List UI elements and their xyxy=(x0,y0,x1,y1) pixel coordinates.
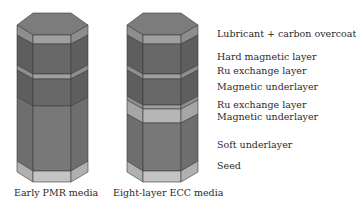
caption-early-pmr: Early PMR media xyxy=(14,188,98,198)
label-hard-magnetic: Hard magnetic layer xyxy=(217,52,317,62)
label-soft-underlayer: Soft underlayer xyxy=(217,140,292,150)
label-lubricant-overcoat: Lubricant + carbon overcoat xyxy=(217,29,356,39)
early-pmr-stack xyxy=(17,13,88,182)
label-magnetic-underlayer-2: Magnetic underlayer xyxy=(217,112,318,122)
label-seed: Seed xyxy=(217,161,241,171)
caption-ecc: Eight-layer ECC media xyxy=(113,188,223,198)
label-ru-exchange-2: Ru exchange layer xyxy=(217,100,306,110)
label-magnetic-underlayer-1: Magnetic underlayer xyxy=(217,82,318,92)
label-ru-exchange-1: Ru exchange layer xyxy=(217,66,306,76)
ecc-stack xyxy=(127,13,198,182)
